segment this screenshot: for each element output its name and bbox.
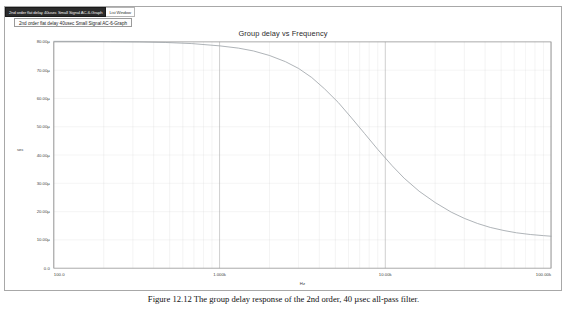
y-tick-label: 0.0: [44, 266, 51, 271]
y-tick-label: 60.00µ: [37, 96, 51, 101]
window-toolbar: 2nd order flat delay 40usec Small Signal…: [5, 17, 561, 28]
y-tick-label: 80.00µ: [37, 39, 51, 44]
tab-graph-document[interactable]: 2nd order flat delay 40usec Small Signal…: [5, 7, 106, 17]
figure-caption: Figure 12.12 The group delay response of…: [0, 294, 567, 304]
y-tick-label: 70.00µ: [37, 68, 51, 73]
tab-list-window[interactable]: List Window: [106, 7, 134, 17]
x-tick-label: 100.00k: [536, 272, 552, 277]
x-axis-label: Hz: [300, 281, 305, 286]
x-tick-label: 10.00k: [379, 272, 393, 277]
x-tick-label: 100.0: [54, 272, 65, 277]
document-title-button[interactable]: 2nd order flat delay 40usec Small Signal…: [14, 18, 132, 27]
y-tick-label: 40.00µ: [37, 153, 51, 158]
chart-area: Group delay vs Frequency 0.010.00µ20.00µ…: [5, 28, 561, 290]
y-tick-label: 30.00µ: [37, 181, 51, 186]
y-tick-label: 20.00µ: [37, 209, 51, 214]
screenshot-root: 2nd order flat delay 40usec Small Signal…: [0, 0, 567, 313]
x-tick-label: 1.000k: [213, 272, 227, 277]
group-delay-plot[interactable]: 0.010.00µ20.00µ30.00µ40.00µ50.00µ60.00µ7…: [5, 28, 561, 290]
window-tab-strip: 2nd order flat delay 40usec Small Signal…: [5, 7, 561, 17]
y-axis-label: sec: [17, 147, 25, 152]
mdi-window: 2nd order flat delay 40usec Small Signal…: [4, 6, 562, 291]
y-tick-label: 50.00µ: [37, 124, 51, 129]
y-tick-label: 10.00µ: [37, 237, 51, 242]
